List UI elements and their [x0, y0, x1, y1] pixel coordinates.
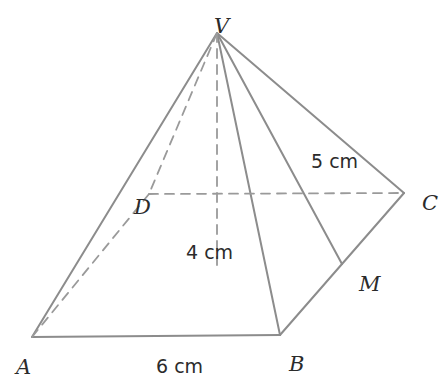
vertex-label-D: D	[134, 197, 151, 218]
edge-slant-height-VM	[217, 33, 342, 264]
measurement-label-slant: 5 cm	[311, 152, 358, 171]
edge-base-edge-AB	[32, 335, 280, 337]
measurement-label-base: 6 cm	[156, 357, 203, 376]
edge-lateral-edge-VA	[32, 33, 217, 337]
vertex-label-B: B	[289, 354, 304, 375]
edge-base-edge-AD	[32, 194, 149, 337]
vertex-label-A: A	[16, 357, 31, 378]
vertex-label-C: C	[422, 193, 438, 214]
edge-base-edge-BC	[280, 193, 404, 335]
geometry-figure: VABCDM5 cm4 cm6 cm	[0, 0, 444, 386]
measurement-label-height: 4 cm	[186, 243, 233, 262]
dashed-edges-group	[32, 33, 404, 337]
edge-lateral-edge-VD	[149, 33, 217, 194]
vertex-label-M: M	[359, 274, 381, 295]
solid-edges-group	[32, 33, 404, 337]
edge-base-diagonal-DC	[149, 193, 404, 194]
vertex-label-V: V	[214, 16, 229, 37]
pyramid-drawing	[0, 0, 444, 386]
